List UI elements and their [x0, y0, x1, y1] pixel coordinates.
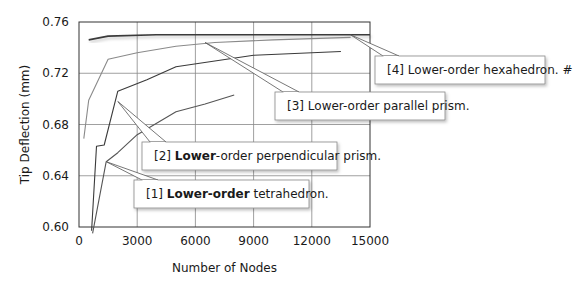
x-tick-label: 15000: [351, 234, 389, 248]
callout-layer: [4] Lower-order hexahedron. #[3] Lower-o…: [106, 35, 572, 208]
y-tick-label: 0.68: [42, 118, 69, 132]
x-axis-title: Number of Nodes: [172, 261, 277, 275]
callout-prefix: [4]: [387, 63, 408, 77]
callout-rest: Lower-order parallel prism.: [308, 99, 470, 113]
callout-rest: Lower-order hexahedron. #: [408, 63, 573, 77]
tip-deflection-chart: [4] Lower-order hexahedron. #[3] Lower-o…: [0, 0, 580, 284]
y-tick-label: 0.72: [42, 66, 69, 80]
callout-rest: tetrahedron.: [250, 187, 329, 201]
series-1: [89, 35, 370, 40]
x-tick-label: 12000: [293, 234, 331, 248]
y-axis-title: Tip Deflection (mm): [18, 65, 32, 185]
callout-prefix: [1]: [146, 187, 167, 201]
x-tick-label: 9000: [238, 234, 269, 248]
x-tick-label: 3000: [122, 234, 153, 248]
callout-leader: [351, 35, 399, 56]
y-tick-label: 0.76: [42, 15, 69, 29]
callout-label: [3] Lower-order parallel prism.: [287, 99, 469, 113]
callout-bold: Lower: [175, 149, 216, 163]
x-tick-label: 0: [75, 234, 83, 248]
callout-label: [2] Lower-order perpendicular prism.: [154, 149, 381, 163]
callout-leader: [205, 43, 299, 93]
callout-label: [4] Lower-order hexahedron. #: [387, 63, 573, 77]
callout-label: [1] Lower-order tetrahedron.: [146, 187, 329, 201]
x-tick-labels: 03000600090001200015000: [75, 234, 389, 248]
callout-1: [4] Lower-order hexahedron. #: [351, 35, 573, 84]
callout-bold: Lower-order: [167, 187, 250, 201]
x-tick-label: 6000: [180, 234, 211, 248]
y-tick-labels: 0.600.640.680.720.76: [42, 15, 69, 234]
callout-prefix: [2]: [154, 149, 175, 163]
y-tick-label: 0.64: [42, 169, 69, 183]
series-line: [89, 35, 370, 40]
y-tick-label: 0.60: [42, 220, 69, 234]
callout-rest: -order perpendicular prism.: [216, 149, 381, 163]
callout-prefix: [3]: [287, 99, 308, 113]
